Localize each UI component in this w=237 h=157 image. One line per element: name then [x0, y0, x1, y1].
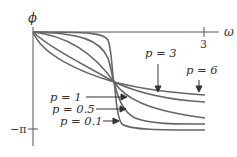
label-p-0.1: p = 0.1 [60, 114, 103, 128]
x-tick-label: 3 [200, 38, 207, 51]
label-p-3: p = 3 [145, 46, 177, 60]
phase-plot: ϕ ω 3 −π p = 3 p = 6 p = 1 p = 0.5 p = [0, 0, 237, 157]
y-tick-label: −π [10, 123, 26, 136]
label-p-6: p = 6 [186, 63, 218, 77]
y-axis-label: ϕ [28, 10, 37, 25]
curve-p-6 [33, 32, 205, 95]
x-axis-label: ω [224, 25, 234, 39]
